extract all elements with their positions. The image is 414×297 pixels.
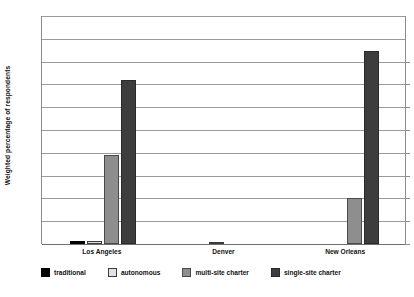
gridline-100pct	[42, 16, 405, 17]
y-axis-title-label: Weighted percentage of respondents	[5, 65, 12, 184]
bar-traditional-los-angeles	[70, 241, 85, 244]
gridline-80pct	[42, 62, 405, 63]
right-axis-tick	[405, 176, 410, 177]
right-axis-tick	[405, 153, 410, 154]
gridline-40pct	[42, 153, 405, 154]
right-axis-tick	[405, 244, 410, 245]
legend-item-single-site[interactable]: single-site charter	[271, 268, 341, 277]
gridline-0pct	[42, 244, 405, 245]
bar-chart-figure: Weighted percentage of respondents 100%9…	[0, 0, 414, 297]
gridline-30pct	[42, 176, 405, 177]
y-axis-title: Weighted percentage of respondents	[0, 0, 16, 250]
bar-multi-site-los-angeles	[104, 155, 119, 244]
gridline-60pct	[42, 107, 405, 108]
legend-swatch-icon-autonomous	[108, 268, 117, 277]
bar-autonomous-los-angeles	[87, 241, 102, 244]
gridline-90pct	[42, 39, 405, 40]
legend-label: traditional	[54, 269, 86, 276]
legend-swatch-icon-multi-site	[182, 268, 191, 277]
legend-item-traditional[interactable]: traditional	[41, 268, 86, 277]
plot-area: 100%90%80%70%60%50%40%30%20%10%0%	[41, 16, 406, 244]
bar-multi-site-new-orleans	[347, 198, 362, 244]
right-axis-tick	[405, 221, 410, 222]
gridline-50pct	[42, 130, 405, 131]
chart-legend: traditionalautonomousmulti-site charters…	[41, 268, 341, 277]
x-axis-tick-label: Denver	[212, 248, 234, 255]
x-axis-tick-label: Los Angeles	[82, 248, 121, 255]
x-axis-tick-label: New Orleans	[325, 248, 365, 255]
legend-swatch-icon-traditional	[41, 268, 50, 277]
right-axis-tick	[405, 84, 410, 85]
legend-label: multi-site charter	[195, 269, 249, 276]
gridline-70pct	[42, 84, 405, 85]
right-axis-tick	[405, 107, 410, 108]
bar-single-site-los-angeles	[121, 80, 136, 244]
legend-swatch-icon-single-site	[271, 268, 280, 277]
legend-item-multi-site[interactable]: multi-site charter	[182, 268, 249, 277]
bar-autonomous-denver	[209, 242, 224, 244]
legend-item-autonomous[interactable]: autonomous	[108, 268, 161, 277]
bar-single-site-new-orleans	[364, 51, 379, 244]
right-axis-tick	[405, 198, 410, 199]
right-axis-tick	[405, 130, 410, 131]
legend-label: autonomous	[121, 269, 161, 276]
plot-inner: 100%90%80%70%60%50%40%30%20%10%0%	[41, 16, 406, 244]
legend-label: single-site charter	[284, 269, 341, 276]
right-axis-tick	[405, 62, 410, 63]
